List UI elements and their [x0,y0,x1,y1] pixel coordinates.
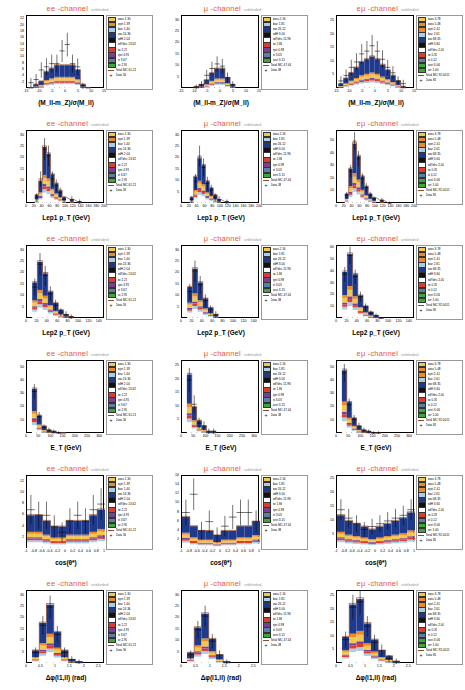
plot-title: eμ -channelunblinded [310,579,465,588]
plot-cell: ee -channelunblinded24681012-1-0.8-0.6-0… [0,460,155,575]
x-tick-label: 160 [395,204,401,208]
plot-title-text: ee -channel [47,119,88,128]
x-tick-label: 20 [342,204,346,208]
x-axis: 050100150200250300 [336,434,414,442]
y-tick-label: 25 [175,29,179,33]
legend-label: Data 56 [116,73,127,78]
plot-title-subtitle: unblinded [244,122,261,127]
legend-label: Data 81 [426,193,437,198]
y-tick-label: 30 [330,163,334,167]
plot-cell: μ -channelunblinded51015202530-15-10-505… [155,0,310,115]
y-tick-label: 4 [177,528,179,532]
x-tick-label: 50 [346,434,350,438]
plot-title: ee -channelunblinded [0,349,155,358]
x-tick-label: 20 [189,319,193,323]
x-tick-label: 60 [202,204,206,208]
y-tick-label: 50 [20,365,24,369]
y-tick-label: 5 [177,305,179,309]
plot-title-subtitle: unblinded [91,237,108,242]
x-axis-label: Lep2 p_T (GeV) [310,329,442,336]
plot-frame [181,245,259,318]
x-tick-label: 150 [215,434,221,438]
x-axis: 020406080100120140 [26,319,104,327]
y-tick-label: 2 [22,80,24,84]
legend: wwu 3.78wwu 5.48wjet 2.41tbar 2.61ww 68.… [416,360,463,435]
legend-entry: Data 38 [263,528,306,533]
plot-title-subtitle: unblinded [401,582,418,587]
plot-canvas [182,361,260,434]
plot-title-text: eμ -channel [357,349,399,358]
x-tick-label: -0.2 [54,549,60,553]
plot-title-text: ee -channel [47,349,88,358]
x-tick-label: -0.4 [46,549,52,553]
legend-line-swatch [418,420,424,421]
x-axis-label: E_T (GeV) [155,444,287,451]
x-axis-label: E_T (GeV) [0,444,132,451]
plot-title: μ -channelunblinded [155,119,310,128]
plot-canvas [27,16,105,89]
y-tick-label: 25 [20,259,24,263]
x-axis-label: cos(θ*) [0,559,132,566]
x-tick-label: 0 [219,549,221,553]
y-tick-label: 20 [175,615,179,619]
x-tick-label: 100 [62,204,68,208]
legend-label: Data 38 [271,298,282,303]
y-tick-label: 22 [20,16,24,20]
x-axis-label: (M_ll-m_Z)/σ(M_ll) [310,99,442,106]
x-tick-label: 0.5 [193,664,198,668]
x-tick-label: 20 [187,204,191,208]
x-tick-label: 150 [370,434,376,438]
legend-marker-swatch [418,424,424,428]
x-tick-label: 160 [85,204,91,208]
y-axis: 510152025 [310,590,335,663]
plot-cell: eμ -channelunblinded510152025-15-10-5051… [310,0,465,115]
y-tick-label: 2 [177,537,179,541]
x-tick-label: -0.2 [209,549,215,553]
plot-cell: eμ -channelunblinded510152025-1-0.8-0.6-… [310,460,465,575]
y-tick-label: 15 [20,167,24,171]
plot-cell: ee -channelunblinded246810121416182022-1… [0,0,155,115]
x-tick-label: -0.8 [341,549,347,553]
x-tick-label: 0.5 [38,664,43,668]
plot-canvas [337,246,415,319]
plot-title-subtitle: unblinded [91,467,108,472]
y-tick-label: 20 [330,32,334,36]
legend-entry: Data 56 [108,418,151,423]
plot-cell: eμ -channelunblinded10203040506002040608… [310,230,465,345]
x-tick-label: -10 [191,89,196,93]
x-axis: -1-0.8-0.6-0.4-0.200.20.40.60.81 [336,549,414,557]
y-tick-label: 10 [330,188,334,192]
legend: wwu 1.30wjet 1.39tbar 1.44ww 24.36zdH 2.… [106,590,153,665]
x-tick-label: 0 [219,89,221,93]
plot-frame [26,360,104,433]
y-axis: 51015202530 [0,245,25,318]
x-axis-label: Δφ(l1,ll) (rad) [310,674,442,681]
plot-title: eμ -channelunblinded [310,464,465,473]
legend-entry: Data 38 [263,298,306,303]
x-tick-label: 0.6 [396,549,401,553]
legend-entry: Data 38 [263,68,306,73]
x-tick-label: 2 [393,664,395,668]
y-tick-label: 5 [177,417,179,421]
x-tick-label: 100 [230,319,236,323]
y-tick-label: 30 [175,133,179,137]
y-tick-label: 12 [20,48,24,52]
y-tick-label: 25 [330,593,334,597]
legend-line-swatch [263,180,269,181]
legend-entry: Data 56 [108,303,151,308]
x-axis: 020406080100120140 [336,319,414,327]
x-tick-label: 50 [36,434,40,438]
plot-frame [336,245,414,318]
plot-canvas [182,16,260,89]
y-tick-label: 10 [330,59,334,63]
legend: wwu 2.16tbar 1.81ww 26.12zdH 3.00zdYdru … [261,590,308,665]
x-tick-label: 40 [40,204,44,208]
y-tick-label: 50 [330,138,334,142]
x-tick-label: 160 [240,204,246,208]
x-axis: 020406080100120140160180200 [26,204,104,212]
plot-title-text: μ -channel [204,349,241,358]
y-tick-label: 4 [22,73,24,77]
plot-title-subtitle: unblinded [244,467,261,472]
y-tick-label: 20 [330,607,334,611]
x-axis-label: Lep2 p_T (GeV) [0,329,132,336]
